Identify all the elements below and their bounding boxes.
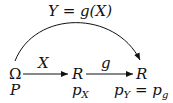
curved-arrow-y <box>15 23 140 61</box>
curved-arrow-label: Y = g(X) <box>48 4 112 19</box>
node-r1: R <box>72 67 83 82</box>
measure-py-eq-pg: pY = pg <box>114 83 168 100</box>
measure-p: P <box>10 83 20 98</box>
edge-label-g: g <box>101 56 111 71</box>
edge-label-x: X <box>38 56 49 71</box>
node-r2: R <box>136 67 147 82</box>
node-omega: Ω <box>9 67 21 82</box>
measure-px: pX <box>72 83 89 100</box>
